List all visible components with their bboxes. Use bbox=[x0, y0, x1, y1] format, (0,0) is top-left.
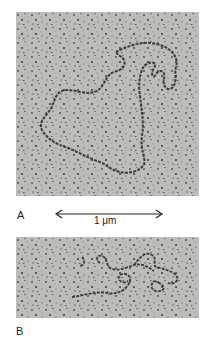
panel-label-a: A bbox=[17, 209, 24, 221]
panel-label-b: B bbox=[16, 325, 23, 337]
scale-bar-label: 1 μm bbox=[94, 215, 116, 226]
micrograph-panel-a bbox=[16, 12, 199, 196]
micrograph-panel-b bbox=[16, 237, 199, 318]
dna-supercoil-image-b bbox=[16, 237, 199, 318]
dna-loop-image-a bbox=[16, 12, 199, 196]
